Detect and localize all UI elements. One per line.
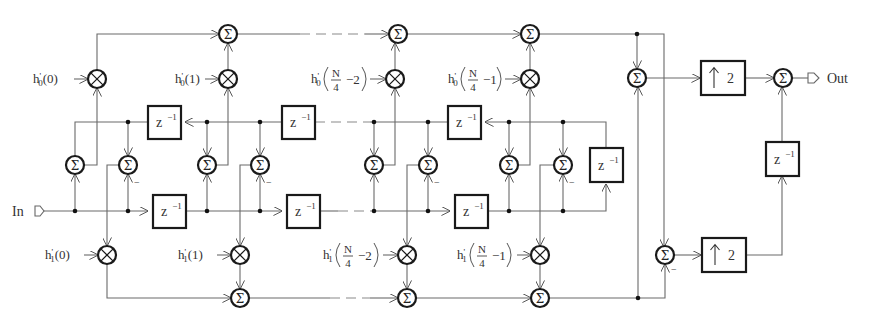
filter-diagram: Σ Σ Σ Σ Σ Σ Σ Σ Σ Σ Σ Σ Σ Σ Σ Σ Σ − − − … [0, 0, 873, 331]
svg-text:Σ: Σ [403, 292, 411, 306]
svg-text:Σ: Σ [633, 72, 641, 86]
multiplier-icon [531, 246, 549, 264]
svg-text:N: N [478, 243, 486, 255]
svg-text:−1: −1 [306, 201, 316, 211]
svg-text:−1: −1 [172, 201, 182, 211]
svg-text:h'0(0): h'0(0) [33, 71, 58, 88]
svg-text:Σ: Σ [224, 28, 232, 42]
delay-lower-3: z−1 [455, 195, 488, 228]
summer-top-3: Σ [521, 25, 539, 43]
svg-text:z: z [161, 204, 167, 219]
svg-text:−: − [434, 177, 440, 188]
svg-text:z: z [295, 204, 301, 219]
svg-text:z: z [774, 152, 780, 167]
svg-text:h'0: h'0 [448, 71, 458, 88]
svg-text:Out: Out [827, 71, 848, 86]
svg-text:Σ: Σ [424, 159, 432, 173]
svg-text:h'1: h'1 [323, 247, 333, 264]
svg-text:N: N [469, 67, 477, 79]
svg-text:h'1: h'1 [457, 247, 467, 264]
multipliers [88, 70, 549, 264]
delay-upper-1: z−1 [148, 106, 181, 139]
svg-text:z: z [598, 158, 604, 173]
upsamplers: 2 2 [701, 61, 746, 272]
coeff-h0-n4-1: h'0 N 4 −1 [448, 67, 501, 93]
coeff-h1-0: h'1(0) [45, 247, 70, 264]
svg-text:−2: −2 [358, 248, 372, 263]
coeff-h1-n4-2: h'1 N 4 −2 [323, 243, 378, 269]
svg-text:−1: −1 [785, 149, 795, 159]
delay-loop: z−1 [590, 148, 623, 182]
coeff-h0-0: h'0(0) [33, 71, 58, 88]
svg-text:h'1(0): h'1(0) [45, 247, 70, 264]
summer-top-1: Σ [219, 25, 237, 43]
coeff-h0-n4-2: h'0 N 4 −2 [311, 67, 366, 93]
svg-text:N: N [344, 243, 352, 255]
svg-text:4: 4 [345, 257, 351, 269]
summer-top-2: Σ [389, 25, 407, 43]
svg-text:4: 4 [333, 81, 339, 93]
svg-text:In: In [12, 204, 24, 219]
svg-text:4: 4 [470, 81, 476, 93]
svg-text:−: − [671, 264, 677, 275]
multiplier-icon [521, 70, 539, 88]
output-port: Out [808, 71, 848, 86]
summer-even-branch: Σ [628, 69, 646, 87]
svg-text:Σ: Σ [370, 159, 378, 173]
svg-text:−1: −1 [609, 155, 619, 165]
delay-lower-2: z−1 [287, 195, 320, 228]
svg-text:h'1(1): h'1(1) [178, 247, 203, 264]
summer-mid-4: Σ [251, 156, 269, 174]
svg-text:Σ: Σ [394, 28, 402, 42]
svg-text:4: 4 [479, 257, 485, 269]
input-port-icon [35, 206, 44, 216]
svg-text:z: z [156, 115, 162, 130]
summer-mid-3: Σ [198, 156, 216, 174]
summer-mid-5: Σ [365, 156, 383, 174]
multiplier-icon [398, 246, 416, 264]
svg-text:h'0: h'0 [311, 71, 321, 88]
multiplier-icon [98, 246, 116, 264]
upsampler-even: 2 [701, 61, 745, 95]
svg-text:Σ: Σ [71, 159, 79, 173]
summers: Σ Σ Σ Σ Σ Σ Σ Σ Σ Σ Σ Σ Σ Σ Σ Σ Σ [66, 25, 792, 307]
svg-text:−: − [569, 177, 575, 188]
upsampler-odd: 2 [702, 238, 746, 272]
coeff-h1-n4-1: h'1 N 4 −1 [457, 243, 511, 269]
svg-text:−1: −1 [467, 112, 477, 122]
svg-text:−: − [134, 177, 140, 188]
svg-text:z: z [456, 115, 462, 130]
summer-bottom-2: Σ [398, 289, 416, 307]
multiplier-icon [231, 246, 249, 264]
svg-text:2: 2 [727, 71, 734, 86]
input-port: In [12, 204, 44, 219]
svg-text:Σ: Σ [236, 292, 244, 306]
delay-upper-3: z−1 [448, 106, 481, 139]
delay-blocks: z−1 z−1 z−1 z−1 z−1 z−1 z−1 z−1 [148, 106, 799, 228]
multiplier-icon [386, 70, 404, 88]
multiplier-icon [219, 70, 237, 88]
output-port-icon [808, 73, 819, 83]
svg-text:Σ: Σ [559, 159, 567, 173]
svg-text:Σ: Σ [526, 28, 534, 42]
delay-output: z−1 [766, 142, 799, 176]
svg-text:N: N [332, 67, 340, 79]
svg-text:−2: −2 [346, 72, 360, 87]
svg-text:h'0(1): h'0(1) [175, 71, 200, 88]
svg-text:z: z [290, 115, 296, 130]
svg-text:Σ: Σ [256, 159, 264, 173]
svg-text:2: 2 [728, 248, 735, 263]
svg-text:Σ: Σ [505, 159, 513, 173]
svg-text:−1: −1 [301, 112, 311, 122]
delay-lower-1: z−1 [153, 195, 186, 228]
svg-text:z: z [463, 204, 469, 219]
summer-mid-7: Σ [500, 156, 518, 174]
multiplier-icon [88, 70, 106, 88]
svg-text:−1: −1 [483, 72, 497, 87]
svg-text:Σ: Σ [779, 72, 787, 86]
svg-text:−1: −1 [492, 248, 506, 263]
svg-text:−1: −1 [474, 201, 484, 211]
delay-upper-2: z−1 [282, 106, 315, 139]
svg-text:−: − [266, 177, 272, 188]
summer-mid-8: Σ [554, 156, 572, 174]
